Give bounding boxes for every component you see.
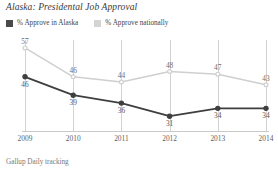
data-point-national-2011 (120, 80, 124, 84)
data-point-national-2012 (168, 70, 172, 74)
x-tick-2009: 2009 (18, 134, 33, 143)
chart-source-note: Gallup Daily tracking (6, 158, 69, 166)
data-point-national-2010 (71, 75, 75, 79)
data-point-alaska-2011 (119, 101, 123, 105)
x-tick-2012: 2012 (162, 134, 177, 143)
x-tick-2010: 2010 (66, 134, 81, 143)
legend-label-national: % Approve nationally (105, 19, 168, 27)
data-label-alaska-2011: 36 (118, 106, 125, 115)
plot-area: 463936313434574644484743 (22, 40, 269, 132)
data-label-national-2014: 43 (262, 74, 269, 83)
data-label-national-2012: 48 (166, 61, 173, 70)
data-label-alaska-2013: 34 (214, 111, 221, 120)
data-label-alaska-2009: 46 (21, 80, 28, 89)
legend-swatch-national-icon (94, 20, 101, 27)
legend-item-national: % Approve nationally (94, 19, 168, 27)
data-point-national-2013 (216, 72, 220, 76)
legend-swatch-alaska-icon (6, 20, 13, 27)
legend-item-alaska: % Approve in Alaska (6, 19, 78, 27)
x-tick-2013: 2013 (210, 134, 225, 143)
data-point-alaska-2009 (23, 75, 27, 79)
data-label-alaska-2010: 39 (69, 98, 76, 107)
data-point-alaska-2014 (264, 106, 268, 110)
data-label-national-2010: 46 (69, 66, 76, 75)
data-point-alaska-2010 (71, 93, 75, 97)
data-point-alaska-2013 (216, 106, 220, 110)
series-lines (22, 40, 269, 132)
chart-legend: % Approve in Alaska % Approve nationally (6, 19, 184, 27)
x-tick-2014: 2014 (259, 134, 274, 143)
x-axis: 200920102011201220132014 (22, 134, 269, 146)
legend-label-alaska: % Approve in Alaska (17, 19, 78, 27)
series-line-national (25, 48, 266, 85)
x-tick-2011: 2011 (114, 134, 129, 143)
series-line-alaska (25, 77, 266, 116)
chart-container: Alaska: Presidental Job Approval % Appro… (0, 0, 278, 177)
data-label-national-2009: 57 (21, 37, 28, 46)
data-label-national-2013: 47 (214, 63, 221, 72)
data-point-national-2009 (23, 46, 27, 50)
data-label-alaska-2014: 34 (262, 111, 269, 120)
data-label-national-2011: 44 (118, 71, 125, 80)
data-point-alaska-2012 (168, 114, 172, 118)
data-label-alaska-2012: 31 (166, 119, 173, 128)
chart-title: Alaska: Presidental Job Approval (6, 2, 137, 12)
data-point-national-2014 (264, 83, 268, 87)
